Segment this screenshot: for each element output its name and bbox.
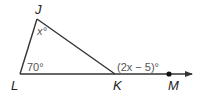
vertex-label-k: K xyxy=(113,78,123,93)
side-jk xyxy=(37,19,115,74)
angle-label-j: x° xyxy=(36,25,48,37)
vertex-label-l: L xyxy=(11,78,18,93)
triangle-diagram: J L K M x° 70° (2x − 5)° xyxy=(0,0,197,96)
angle-label-l: 70° xyxy=(27,61,44,73)
angle-label-k-exterior: (2x − 5)° xyxy=(117,61,159,73)
vertex-label-j: J xyxy=(34,2,42,17)
point-label-m: M xyxy=(168,78,179,93)
point-m-dot xyxy=(166,71,171,76)
